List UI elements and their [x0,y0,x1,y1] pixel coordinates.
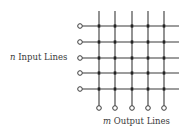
input-terminal-icon [78,71,83,76]
output-terminal-icon [113,106,118,111]
crosspoint-switch [147,56,150,59]
crosspoint-switch [147,40,150,43]
crosspoint-switch [163,87,166,90]
crosspoint-switch [147,71,150,74]
crosspoint-switch [163,56,166,59]
crosspoint-switch [131,40,134,43]
crosspoint-switch [114,40,117,43]
output-terminal-icon [130,106,135,111]
crosspoint-switch [131,24,134,27]
crosspoint-switch [98,71,101,74]
crosspoint-switch [114,56,117,59]
crosspoint-switch [131,56,134,59]
crosspoint-switch [114,24,117,27]
crosspoint-switch [131,71,134,74]
output-lines-text: Output Lines [114,116,170,126]
crosspoint-switch [114,87,117,90]
crosspoint-switch [163,71,166,74]
crosspoint-switch [98,24,101,27]
crosspoint-switch [147,87,150,90]
crosspoint-switch [147,24,150,27]
crosspoint-switch [163,24,166,27]
output-lines-label: m Output Lines [103,116,170,126]
output-terminal-icon [162,106,167,111]
crosspoint-switch [98,87,101,90]
input-count-var: n [10,52,15,62]
crossbar-diagram [0,0,191,133]
output-terminal-icon [146,106,151,111]
input-lines-label: n Input Lines [10,52,67,62]
input-terminal-icon [78,87,83,92]
input-terminal-icon [78,56,83,61]
input-terminal-icon [78,24,83,29]
crosspoint-switch [163,40,166,43]
crosspoint-switch [114,71,117,74]
input-lines-text: Input Lines [18,52,67,62]
output-count-var: m [103,116,111,126]
input-terminal-icon [78,40,83,45]
crosspoint-switch [98,56,101,59]
output-terminal-icon [97,106,102,111]
crosspoint-switch [131,87,134,90]
crosspoint-switch [98,40,101,43]
